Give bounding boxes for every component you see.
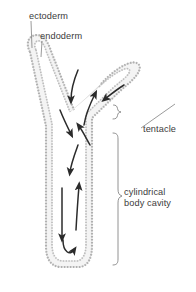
arrow-inflow-center [71,70,78,100]
label-ectoderm: ectoderm [29,11,68,22]
label-cylindrical-body-cavity: cylindricalbody cavity [124,187,171,208]
cnidarian-diagram [0,0,196,292]
brackets [113,105,122,265]
diagram-canvas: ectoderm endoderm tentacle cylindricalbo… [0,0,196,292]
label-tentacle: tentacle [143,124,176,135]
body-cavity-line-2: body cavity [124,198,171,208]
organism-body [28,35,140,267]
body-cavity-line-1: cylindrical [124,187,165,197]
bracket-tentacle [113,105,121,119]
bracket-body-cavity [113,133,122,265]
label-endoderm: endoderm [40,31,82,42]
